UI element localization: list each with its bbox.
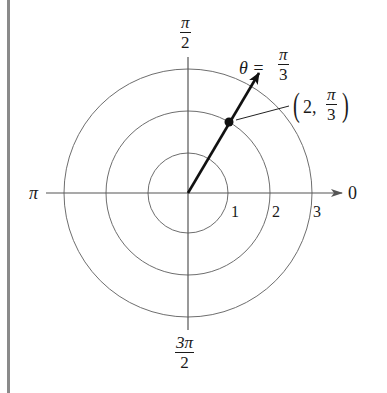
polar-diagram: π 2 3π 2 π 0 1 2 3 θ = π 3 ( 2, π 3 ) <box>0 0 387 393</box>
theta-lhs: θ = <box>239 58 265 78</box>
label-pi-over-2-num: π <box>180 14 191 32</box>
point-label-den: 3 <box>327 105 336 123</box>
point-label-close-paren: ) <box>342 88 349 122</box>
theta-num: π <box>278 46 289 64</box>
point-label-fraction: π 3 <box>326 86 337 123</box>
theta-equals-label: θ = <box>239 59 265 77</box>
label-pi: π <box>29 184 38 202</box>
radius-label-1: 1 <box>231 204 239 220</box>
radius-label-2: 2 <box>272 204 280 220</box>
label-3pi-over-2-num: 3π <box>175 334 194 352</box>
label-pi-over-2-den: 2 <box>181 33 190 51</box>
point-2-pi-over-3 <box>225 118 234 127</box>
label-3pi-over-2: 3π 2 <box>175 334 194 371</box>
point-label-r: 2, <box>303 98 317 116</box>
point-label-open-paren: ( <box>293 88 300 122</box>
label-3pi-over-2-den: 2 <box>180 353 189 371</box>
point-leader-line <box>236 106 289 120</box>
radius-label-3: 3 <box>313 204 321 220</box>
point-label-num: π <box>326 86 337 104</box>
label-pi-over-2: π 2 <box>180 14 191 51</box>
theta-fraction: π 3 <box>278 46 289 83</box>
label-zero: 0 <box>348 184 357 202</box>
theta-den: 3 <box>279 65 288 83</box>
